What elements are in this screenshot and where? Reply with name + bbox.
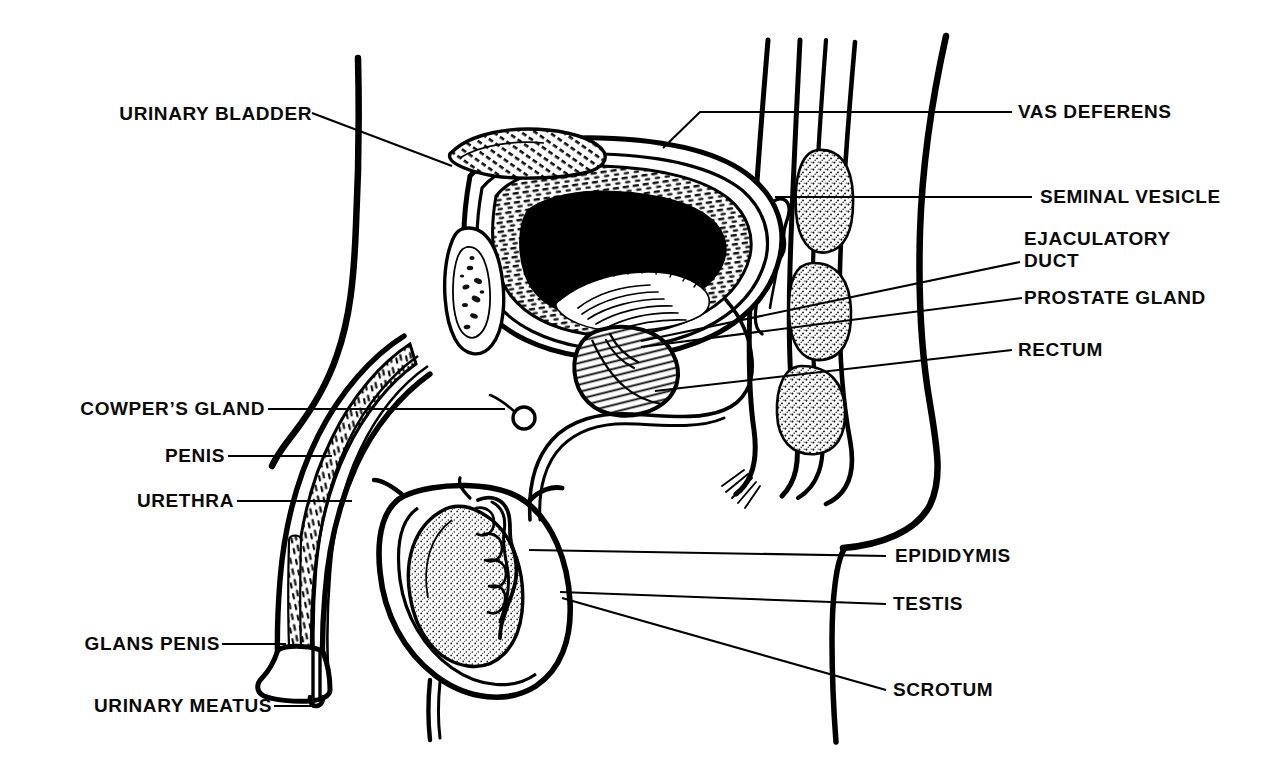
label-seminal-vesicle: SEMINAL VESICLE	[1040, 186, 1221, 207]
label-prostate-gland: PROSTATE GLAND	[1024, 287, 1206, 308]
leader-testis	[560, 592, 886, 604]
anatomical-diagram-page: URINARY BLADDER COWPER’S GLAND PENIS URE…	[0, 0, 1271, 770]
label-ejaculatory-duct-line1: EJACULATORY	[1024, 228, 1171, 250]
prostate-gland	[574, 327, 678, 416]
leader-urinary-bladder	[312, 113, 452, 166]
pubic-bone	[445, 228, 504, 354]
label-glans-penis: GLANS PENIS	[58, 633, 220, 654]
label-cowpers-gland: COWPER’S GLAND	[55, 398, 265, 419]
label-penis: PENIS	[105, 445, 225, 466]
cowpers-gland	[490, 395, 535, 429]
leader-vas-deferens	[663, 112, 1012, 148]
penis-shaft	[277, 336, 430, 676]
label-urinary-meatus: URINARY MEATUS	[50, 695, 272, 716]
label-urinary-bladder: URINARY BLADDER	[97, 103, 312, 124]
leader-epididymis	[529, 550, 886, 556]
label-ejaculatory-duct: EJACULATORY DUCT	[1024, 228, 1171, 273]
label-testis: TESTIS	[893, 593, 963, 614]
label-vas-deferens: VAS DEFERENS	[1018, 101, 1172, 122]
glans-penis	[258, 646, 330, 701]
label-ejaculatory-duct-line2: DUCT	[1024, 250, 1171, 272]
label-rectum: RECTUM	[1018, 339, 1103, 360]
label-scrotum: SCROTUM	[893, 679, 993, 700]
label-epididymis: EPIDIDYMIS	[895, 545, 1011, 566]
leader-scrotum	[562, 598, 886, 690]
label-urethra: URETHRA	[104, 490, 234, 511]
